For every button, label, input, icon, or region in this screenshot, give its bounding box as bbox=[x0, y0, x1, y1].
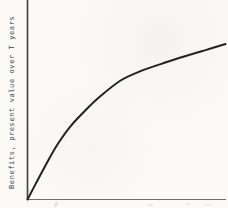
benefits-curve bbox=[28, 44, 226, 200]
benefits-curve-figure: Benefits, present value over T years bbox=[0, 0, 228, 208]
cropped-x-label-remnant bbox=[186, 203, 190, 205]
cropped-x-label-remnant bbox=[148, 204, 153, 206]
cropped-x-label-remnant bbox=[205, 204, 211, 206]
y-axis-label: Benefits, present value over T years bbox=[4, 2, 20, 202]
chart-svg bbox=[0, 0, 228, 208]
